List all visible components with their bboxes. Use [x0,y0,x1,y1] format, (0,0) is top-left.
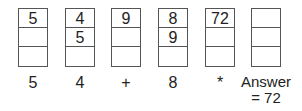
stack-cell [252,9,280,28]
stack-3: 9 [111,8,141,67]
stack-cell [252,47,280,66]
stack-cell [252,28,280,47]
stack-cell: 9 [159,28,187,47]
stack-cell: 8 [159,9,187,28]
stack-cell [159,47,187,66]
stack-cell: 5 [19,9,47,28]
token-label: 8 [153,74,193,92]
token-label: + [106,74,146,92]
stack-cell [206,28,234,47]
stack-cell: 9 [112,9,140,28]
token-label: 5 [13,74,53,92]
stack-6 [251,8,281,67]
stack-1: 5 [18,8,48,67]
token-label: * [200,74,240,92]
token-label: 4 [60,74,100,92]
stack-cell: 72 [206,9,234,28]
answer-value: = 72 [236,90,296,106]
answer-label: Answer = 72 [236,74,296,106]
stack-5: 72 [205,8,235,67]
stack-cell: 4 [66,9,94,28]
stack-cell: 5 [66,28,94,47]
stack-cell [112,28,140,47]
stack-cell [66,47,94,66]
stack-cell [112,47,140,66]
answer-title: Answer [236,74,296,90]
stack-cell [19,47,47,66]
stack-cell [206,47,234,66]
stack-4: 8 9 [158,8,188,67]
stack-2: 4 5 [65,8,95,67]
stack-cell [19,28,47,47]
